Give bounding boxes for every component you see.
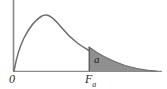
tail-area-label: a [94, 54, 100, 65]
origin-tick-label: 0 [9, 73, 15, 85]
critical-value-label: Fa [85, 73, 96, 88]
f-distribution-figure: 0 Fa a [0, 0, 167, 89]
critical-value-subscript: a [92, 80, 96, 89]
density-plot-svg [0, 0, 167, 89]
density-curve [14, 15, 89, 71]
